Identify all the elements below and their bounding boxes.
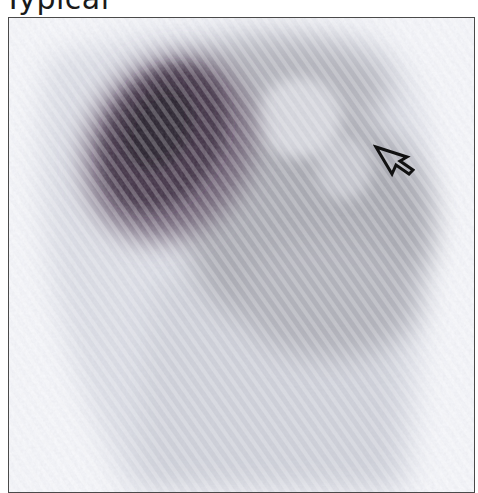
scintigraphy-scan-image xyxy=(9,18,474,492)
figure-label: Typical xyxy=(4,0,110,14)
scan-image-frame xyxy=(8,17,475,493)
arrow-annotation-icon xyxy=(373,144,415,180)
